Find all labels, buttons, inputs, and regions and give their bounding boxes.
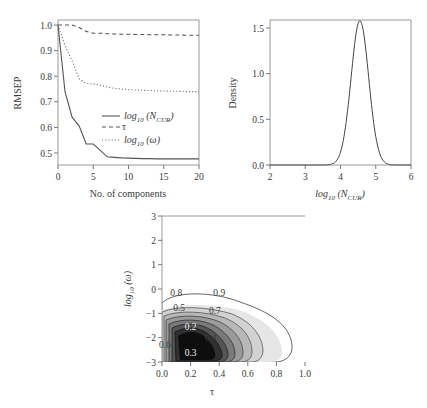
svg-text:2: 2 — [151, 236, 156, 246]
rmsep-y-axis: 0.50.60.70.80.91.0 — [40, 21, 58, 159]
contour-label: 0.7 — [209, 306, 221, 316]
svg-text:−1: −1 — [146, 309, 156, 319]
svg-text:0.7: 0.7 — [40, 97, 52, 107]
contour-label: 0.9 — [213, 288, 225, 298]
svg-text:0: 0 — [56, 172, 61, 182]
density-y-tick: 1.5 — [252, 24, 270, 34]
svg-text:0.0: 0.0 — [252, 161, 264, 171]
svg-text:2: 2 — [268, 172, 273, 182]
density-y-axis: 0.00.51.01.5 — [252, 24, 270, 171]
legend-item-ncur: log10 (NCUR) — [102, 110, 174, 124]
svg-text:1.0: 1.0 — [252, 69, 264, 79]
density-y-tick: 1.0 — [252, 69, 270, 79]
contour-label: 0.6 — [159, 340, 171, 350]
rmsep-x-tick: 15 — [159, 165, 169, 182]
svg-text:0.9: 0.9 — [40, 46, 52, 56]
rmsep-y-tick: 0.9 — [40, 46, 58, 56]
svg-text:−2: −2 — [146, 333, 156, 343]
density-x-tick: 5 — [373, 165, 378, 182]
svg-text:τ: τ — [122, 121, 126, 132]
contour-x-tick: 0.2 — [185, 362, 197, 379]
rmsep-x-tick: 5 — [91, 165, 96, 182]
svg-text:0.5: 0.5 — [252, 115, 264, 125]
svg-text:−3: −3 — [146, 358, 156, 368]
svg-text:0.8: 0.8 — [270, 369, 282, 379]
rmsep-x-tick: 0 — [56, 165, 61, 182]
svg-text:1.0: 1.0 — [299, 369, 311, 379]
contour-x-axis: 0.00.20.40.60.81.0 — [156, 362, 311, 379]
legend-item-omega: log10 (ω) — [102, 134, 161, 148]
rmsep-y-tick: 0.6 — [40, 123, 58, 133]
svg-text:0.6: 0.6 — [242, 369, 254, 379]
svg-text:0.0: 0.0 — [156, 369, 168, 379]
contour-y-tick: 1 — [151, 260, 162, 270]
contour-x-tick: 0.8 — [270, 362, 282, 379]
contour-y-tick: −1 — [146, 309, 162, 319]
contour-x-tick: 0.4 — [213, 362, 225, 379]
density-y-tick: 0.5 — [252, 115, 270, 125]
contour-x-axis-title: τ — [210, 386, 214, 397]
rmsep-y-tick: 1.0 — [40, 21, 58, 31]
rmsep-x-tick: 20 — [194, 165, 204, 182]
density-x-axis: 23456 — [268, 165, 414, 182]
rmsep-x-axis-title: No. of components — [90, 188, 166, 199]
density-chart: 0.00.51.01.5 23456 Density log10 (NCUR) — [227, 20, 414, 202]
contour-label: 0.3 — [185, 348, 197, 358]
contour-y-tick: 0 — [151, 285, 162, 295]
svg-text:0.2: 0.2 — [185, 369, 197, 379]
svg-text:5: 5 — [373, 172, 378, 182]
figure: 0.50.60.70.80.91.0 05101520 RMSEP No. of… — [0, 0, 427, 408]
svg-text:1.0: 1.0 — [40, 21, 52, 31]
contour-x-tick: 0.0 — [156, 362, 168, 379]
svg-text:10: 10 — [124, 172, 134, 182]
density-x-tick: 6 — [409, 165, 414, 182]
density-curve — [270, 21, 411, 165]
svg-text:0.6: 0.6 — [40, 123, 52, 133]
rmsep-x-tick: 10 — [124, 165, 134, 182]
density-x-axis-title: log10 (NCUR) — [315, 188, 365, 202]
rmsep-x-axis: 05101520 — [56, 165, 204, 182]
svg-text:0.8: 0.8 — [40, 72, 52, 82]
svg-text:4: 4 — [338, 172, 343, 182]
svg-text:5: 5 — [91, 172, 96, 182]
svg-text:log10 (ω): log10 (ω) — [124, 134, 161, 148]
density-x-tick: 3 — [303, 165, 308, 182]
density-x-tick: 4 — [338, 165, 343, 182]
svg-text:3: 3 — [303, 172, 308, 182]
svg-text:0: 0 — [151, 285, 156, 295]
contour-y-tick: −3 — [146, 358, 162, 368]
contour-y-tick: 2 — [151, 236, 162, 246]
contour-label: 0.4 — [205, 333, 217, 343]
rmsep-y-tick: 0.7 — [40, 97, 58, 107]
svg-text:15: 15 — [159, 172, 169, 182]
density-x-tick: 2 — [268, 165, 273, 182]
contour-y-axis-title: log10 (ω) — [122, 270, 136, 307]
contour-chart: 0.90.80.70.50.60.40.20.3 −3−2−10123 0.00… — [122, 212, 311, 398]
rmsep-y-tick: 0.8 — [40, 72, 58, 82]
density-y-tick: 0.0 — [252, 161, 270, 171]
contour-x-tick: 0.6 — [242, 362, 254, 379]
svg-text:1: 1 — [151, 260, 156, 270]
svg-text:log10 (NCUR): log10 (NCUR) — [124, 110, 174, 124]
rmsep-legend: log10 (NCUR) τ log10 (ω) — [102, 110, 174, 148]
svg-text:0.5: 0.5 — [40, 149, 52, 159]
contour-x-tick: 1.0 — [299, 362, 311, 379]
svg-text:6: 6 — [409, 172, 414, 182]
density-plot-frame — [270, 20, 411, 165]
rmsep-chart: 0.50.60.70.80.91.0 05101520 RMSEP No. of… — [12, 20, 204, 199]
rmsep-y-axis-title: RMSEP — [12, 76, 23, 109]
svg-text:20: 20 — [194, 172, 204, 182]
legend-item-tau: τ — [102, 121, 126, 132]
svg-text:1.5: 1.5 — [252, 24, 264, 34]
rmsep-line-dashed — [58, 25, 199, 35]
contour-label: 0.5 — [173, 303, 185, 313]
contour-label: 0.8 — [170, 288, 182, 298]
contour-y-tick: 3 — [151, 212, 162, 222]
svg-text:3: 3 — [151, 212, 156, 222]
density-y-axis-title: Density — [227, 77, 238, 108]
contour-label: 0.2 — [185, 322, 197, 332]
svg-text:0.4: 0.4 — [213, 369, 225, 379]
rmsep-y-tick: 0.5 — [40, 149, 58, 159]
